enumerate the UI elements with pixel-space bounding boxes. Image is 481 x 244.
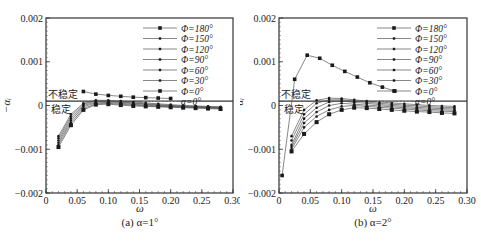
marker-square bbox=[327, 112, 331, 116]
marker-dot bbox=[290, 139, 293, 142]
legend-marker bbox=[393, 58, 395, 60]
series-line bbox=[292, 108, 455, 152]
x-axis-label-b: ω bbox=[253, 202, 481, 214]
unstable-label: 不稳定 bbox=[48, 88, 78, 100]
legend-label: Φ=90° bbox=[181, 55, 208, 65]
series-6 bbox=[290, 106, 457, 154]
marker-square bbox=[69, 123, 73, 127]
chart-panel-b: 00.050.100.150.200.250.300.0020.0010−0.0… bbox=[240, 0, 480, 244]
legend-label: Φ=180° bbox=[415, 24, 447, 34]
marker-square bbox=[402, 109, 406, 113]
legend-label: Φ=120° bbox=[415, 45, 447, 55]
marker-square bbox=[169, 97, 173, 101]
marker-dot bbox=[303, 109, 306, 112]
legend-marker bbox=[159, 79, 161, 81]
legend-marker bbox=[393, 48, 395, 50]
marker-square bbox=[452, 111, 456, 115]
marker-square bbox=[156, 96, 160, 100]
legend-label: Φ=150° bbox=[181, 34, 213, 44]
caption-a: (a) α=1° bbox=[20, 216, 260, 228]
legend-label: Φ=120° bbox=[181, 45, 213, 55]
marker-dot bbox=[315, 111, 318, 114]
marker-dot bbox=[328, 101, 331, 104]
marker-square bbox=[119, 103, 123, 107]
marker-dot bbox=[303, 113, 306, 116]
x-axis-label-a: ω bbox=[20, 202, 260, 214]
y-tick-label: −0.002 bbox=[248, 188, 276, 199]
marker-square bbox=[390, 108, 394, 112]
marker-square bbox=[356, 75, 360, 79]
legend-marker bbox=[159, 37, 161, 39]
marker-dot bbox=[328, 104, 331, 107]
marker-square bbox=[290, 149, 294, 153]
y-tick-label: 0 bbox=[38, 100, 43, 111]
marker-square bbox=[82, 90, 86, 94]
legend-marker bbox=[159, 48, 161, 50]
legend-marker bbox=[392, 26, 396, 30]
marker-square bbox=[280, 174, 284, 178]
marker-square bbox=[293, 77, 297, 81]
marker-square bbox=[343, 70, 347, 74]
marker-dot bbox=[315, 99, 318, 102]
y-tick-label: −0.001 bbox=[15, 144, 43, 155]
marker-square bbox=[352, 106, 356, 110]
y-tick-label: 0.002 bbox=[21, 13, 44, 24]
unstable-label: 不稳定 bbox=[281, 88, 311, 100]
legend-label: Φ=30° bbox=[181, 76, 208, 86]
marker-square bbox=[169, 105, 173, 109]
marker-square bbox=[144, 96, 148, 100]
series-0 bbox=[280, 53, 396, 177]
marker-square bbox=[305, 53, 309, 57]
marker-square bbox=[156, 105, 160, 109]
legend-marker bbox=[159, 58, 161, 60]
marker-square bbox=[381, 85, 385, 89]
marker-square bbox=[302, 132, 306, 136]
marker-dot bbox=[290, 135, 293, 138]
marker-square bbox=[219, 107, 223, 111]
marker-square bbox=[340, 108, 344, 112]
legend-label: Φ=0° bbox=[415, 87, 437, 97]
y-tick-label: −0.002 bbox=[15, 188, 43, 199]
legend-label: Φ=180° bbox=[181, 24, 213, 34]
legend-marker bbox=[393, 79, 395, 81]
stable-label: 稳定 bbox=[284, 103, 304, 115]
marker-square bbox=[330, 63, 334, 67]
series-line bbox=[282, 55, 395, 175]
marker-square bbox=[56, 145, 60, 149]
legend-label: α=0° bbox=[415, 97, 435, 107]
marker-dot bbox=[340, 102, 343, 105]
marker-square bbox=[107, 94, 111, 98]
marker-square bbox=[94, 103, 98, 107]
marker-dot bbox=[303, 117, 306, 120]
chart-panel-a: 00.050.100.150.200.250.300.0020.0010−0.0… bbox=[0, 0, 240, 244]
marker-square bbox=[415, 110, 419, 114]
marker-square bbox=[106, 102, 110, 106]
marker-square bbox=[365, 106, 369, 110]
legend-label: Φ=0° bbox=[181, 87, 203, 97]
marker-square bbox=[81, 108, 85, 112]
marker-square bbox=[440, 111, 444, 115]
stable-label: 稳定 bbox=[51, 103, 71, 115]
marker-dot bbox=[303, 122, 306, 125]
y-tick-label: −0.001 bbox=[248, 144, 276, 155]
caption-b: (b) α=2° bbox=[253, 216, 481, 228]
legend-label: Φ=60° bbox=[181, 66, 208, 76]
marker-square bbox=[94, 92, 98, 96]
marker-dot bbox=[315, 115, 318, 118]
legend-label: Φ=30° bbox=[415, 76, 442, 86]
marker-square bbox=[368, 81, 372, 85]
y-axis-label: −αᵢ bbox=[0, 98, 12, 113]
marker-dot bbox=[315, 106, 318, 109]
marker-dot bbox=[315, 102, 318, 105]
marker-square bbox=[131, 104, 135, 108]
legend-marker bbox=[392, 89, 396, 93]
marker-square bbox=[315, 120, 319, 124]
y-tick-label: 0.001 bbox=[254, 56, 277, 67]
legend-marker bbox=[393, 37, 395, 39]
marker-square bbox=[144, 104, 148, 108]
marker-square bbox=[318, 56, 322, 60]
marker-square bbox=[119, 95, 123, 99]
marker-square bbox=[377, 107, 381, 111]
y-axis-label: −αᵢ bbox=[240, 98, 245, 113]
legend-marker bbox=[159, 69, 161, 71]
